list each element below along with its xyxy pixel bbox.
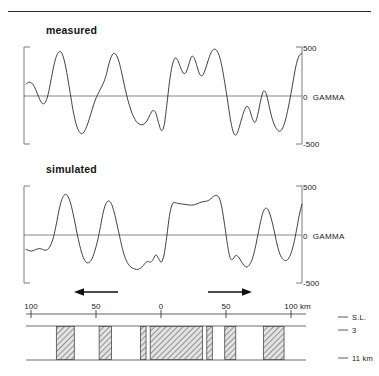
magnetized-block	[263, 327, 284, 360]
figure-vector-layer	[0, 0, 379, 376]
magnetized-block	[56, 327, 74, 360]
figure-root: measured simulated 500 0 GAMMA -500 500 …	[0, 0, 379, 376]
measured-anomaly-curve	[26, 49, 302, 135]
magnetized-block	[150, 327, 202, 360]
simulated-left-scale-bracket	[24, 186, 30, 283]
crustal-cross-section-group	[26, 326, 306, 360]
magnetized-block	[207, 327, 213, 360]
measured-left-scale-bracket	[24, 47, 30, 144]
simulated-right-scale-bracket	[296, 186, 302, 283]
annotation-arrows-group	[74, 288, 252, 295]
simulated-anomaly-curve	[26, 194, 302, 269]
depth-leader-dashes	[338, 317, 348, 358]
left-arrow	[74, 288, 118, 295]
measured-panel-group	[24, 47, 302, 144]
magnetized-block	[99, 327, 111, 360]
simulated-panel-group	[24, 186, 302, 283]
distance-axis-group	[26, 310, 306, 318]
magnetized-block	[141, 327, 147, 360]
magnetized-block	[225, 327, 236, 360]
right-arrow	[208, 288, 252, 295]
magnetized-blocks-layer	[56, 327, 284, 360]
